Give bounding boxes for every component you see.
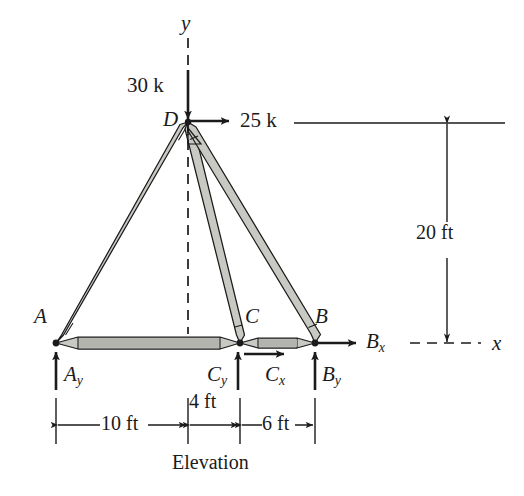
dimension-label-20ft: 20 ft bbox=[416, 222, 453, 242]
joint-markers bbox=[53, 119, 319, 347]
elevation-truss-diagram: y x D A C B 30 k 25 k Ay Cy Cx By Bx 10 … bbox=[0, 0, 524, 496]
member-DC bbox=[185, 122, 245, 343]
reaction-base-Ay: A bbox=[64, 362, 77, 386]
dimension-label-6ft: 6 ft bbox=[262, 413, 289, 433]
load-label-25k: 25 k bbox=[240, 110, 277, 131]
reaction-sub-Ay: y bbox=[77, 373, 83, 388]
member-CB bbox=[240, 338, 315, 348]
reaction-label-Ay: Ay bbox=[64, 364, 83, 385]
reaction-sub-Bx: x bbox=[379, 340, 385, 355]
reaction-base-Cy: C bbox=[207, 362, 221, 386]
reaction-base-By: B bbox=[322, 362, 335, 386]
joint-A bbox=[53, 340, 60, 347]
joint-C bbox=[237, 340, 244, 347]
member-DA bbox=[56, 122, 188, 343]
reaction-label-By: By bbox=[322, 364, 341, 385]
node-label-B: B bbox=[315, 306, 328, 327]
reaction-sub-Cy: y bbox=[221, 373, 227, 388]
node-label-C: C bbox=[245, 306, 259, 327]
reaction-base-Cx: C bbox=[265, 362, 279, 386]
reaction-label-Bx: Bx bbox=[366, 331, 385, 352]
reaction-label-Cx: Cx bbox=[265, 364, 285, 385]
y-axis-label: y bbox=[181, 13, 190, 34]
x-axis-label: x bbox=[492, 333, 501, 354]
node-label-A: A bbox=[34, 306, 47, 327]
load-label-30k: 30 k bbox=[127, 75, 164, 96]
reaction-label-Cy: Cy bbox=[207, 364, 227, 385]
reaction-base-Bx: B bbox=[366, 329, 379, 353]
dimension-label-4ft: 4 ft bbox=[189, 391, 216, 411]
reaction-sub-Cx: x bbox=[279, 373, 285, 388]
figure-caption: Elevation bbox=[172, 452, 249, 472]
reaction-sub-By: y bbox=[335, 373, 341, 388]
node-label-D: D bbox=[163, 109, 178, 130]
dimension-label-10ft: 10 ft bbox=[101, 413, 138, 433]
member-AC bbox=[56, 337, 240, 349]
